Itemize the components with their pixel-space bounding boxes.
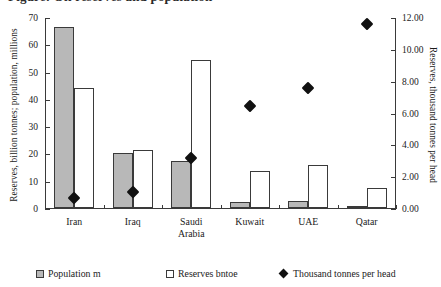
y-tick-label: 50 [29,68,39,78]
x-category-label: Saudi Arabia [162,216,221,240]
y-tick-label: 60 [29,40,39,50]
plot-area [45,18,396,209]
legend-item[interactable]: Thousand tonnes per head [280,268,396,279]
y-axis-tick-labels: 010203040506070 [0,18,38,209]
y-tick-mark [46,73,50,74]
y-tick-mark [46,127,50,128]
y2-axis-tick-labels: 0.002.004.006.008.0010.0012.00 [402,18,441,209]
y-tick-label: 40 [29,95,39,105]
y-tick-mark [46,45,50,46]
bar-reserves [191,60,211,208]
bar-population [113,153,133,208]
x-category-label: Qatar [338,216,397,228]
y-tick-mark [46,18,50,19]
bar-population [171,161,191,208]
chart-figure: Figure: Oil reserves and population Rese… [0,0,441,287]
y2-tick-mark [391,18,395,19]
bar-reserves [250,171,270,208]
legend-item-label: Population m [48,268,101,279]
y-tick-label: 0 [33,204,38,214]
y-tick-mark [46,100,50,101]
bar-population [288,201,308,208]
bar-reserves [308,165,328,208]
y2-tick-label: 2.00 [402,172,419,182]
x-tick-mark [104,205,105,209]
y2-tick-mark [391,209,395,210]
y2-tick-label: 6.00 [402,109,419,119]
y2-tick-label: 10.00 [402,45,423,55]
y-tick-label: 20 [29,149,39,159]
y-tick-mark [46,209,50,210]
x-category-label: Iran [45,216,104,228]
x-tick-mark [396,205,397,209]
y2-tick-mark [391,82,395,83]
white-square-swatch-icon [166,270,174,278]
legend-item-label: Thousand tonnes per head [293,268,396,279]
y2-tick-mark [391,177,395,178]
y2-tick-label: 4.00 [402,140,419,150]
y2-tick-mark [391,50,395,51]
gray-square-swatch-icon [36,270,44,278]
bar-reserves [74,88,94,208]
clipped-title-strip: Figure: Oil reserves and population [0,0,441,9]
legend-item-label: Reserves bntoe [178,268,238,279]
bar-reserves [367,188,387,208]
y2-tick-mark [391,114,395,115]
y2-tick-label: 12.00 [402,13,423,23]
marker-tonnes-per-head [360,17,373,30]
y-tick-label: 30 [29,122,39,132]
axis-spine-right [395,18,396,210]
x-tick-mark [221,205,222,209]
x-tick-mark [162,205,163,209]
marker-tonnes-per-head [302,82,315,95]
bar-population [347,206,367,208]
bar-population [230,202,250,208]
chart-legend: Population mReserves bntoeThousand tonne… [0,266,441,284]
y-tick-label: 70 [29,13,39,23]
x-tick-mark [338,205,339,209]
bar-reserves [133,150,153,208]
y-tick-mark [46,154,50,155]
y-tick-mark [46,182,50,183]
y-tick-label: 10 [29,177,39,187]
y2-tick-label: 0.00 [402,204,419,214]
x-tick-mark [279,205,280,209]
x-category-label: Kuwait [221,216,280,228]
marker-tonnes-per-head [243,100,256,113]
figure-title: Figure: Oil reserves and population [8,0,212,5]
y2-tick-mark [391,145,395,146]
x-category-label: UAE [279,216,338,228]
y2-tick-label: 8.00 [402,77,419,87]
legend-item[interactable]: Population m [36,268,101,279]
black-diamond-marker-icon [279,269,289,279]
bar-population [54,27,74,208]
legend-item[interactable]: Reserves bntoe [166,268,238,279]
x-category-label: Iraq [104,216,163,228]
x-tick-mark [45,205,46,209]
